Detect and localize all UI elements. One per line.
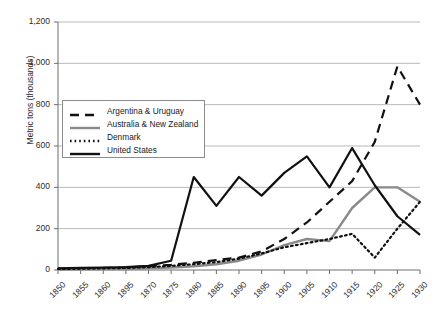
legend-label: Denmark <box>107 132 141 142</box>
series-line <box>58 202 420 269</box>
legend-swatch-dotted-icon <box>69 132 101 142</box>
legend-item-australia-new-zealand: Australia & New Zealand <box>63 117 204 130</box>
legend-label: United States <box>107 145 157 155</box>
y-tick-label: 0 <box>10 264 50 274</box>
legend-item-denmark: Denmark <box>63 130 204 143</box>
legend-label: Australia & New Zealand <box>107 119 198 129</box>
y-tick-label: 200 <box>10 223 50 233</box>
y-tick-label: 600 <box>10 140 50 150</box>
y-tick-label: 1,000 <box>10 57 50 67</box>
chart-legend: Argentina & Uruguay Australia & New Zeal… <box>62 100 205 158</box>
legend-swatch-dashed-icon <box>69 106 101 116</box>
legend-item-argentina-uruguay: Argentina & Uruguay <box>63 104 204 117</box>
y-tick-label: 1,200 <box>10 16 50 26</box>
y-tick-label: 800 <box>10 99 50 109</box>
legend-swatch-gray-solid-icon <box>69 119 101 129</box>
legend-label: Argentina & Uruguay <box>107 106 184 116</box>
y-tick-label: 400 <box>10 181 50 191</box>
legend-item-united-states: United States <box>63 143 204 156</box>
series-line <box>58 148 420 268</box>
series-line <box>58 66 420 269</box>
legend-swatch-black-solid-icon <box>69 145 101 155</box>
chart-container: Metric tons (thousands) Argentina & Urug… <box>0 0 435 309</box>
